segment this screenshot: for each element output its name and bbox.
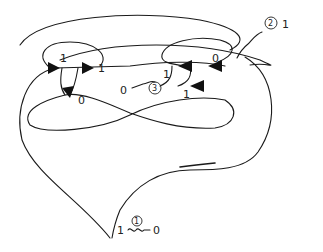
crossing-label: 0 [212, 52, 219, 65]
move-number: 1 [134, 217, 139, 226]
move-target: 1 [282, 18, 289, 31]
move-number: 3 [152, 84, 157, 93]
crossing-label: 1 [163, 68, 170, 81]
move-source: 1 [117, 224, 124, 237]
move-number: 2 [268, 19, 273, 28]
crossing-label: 1 [183, 88, 190, 101]
labels-layer: 1 1 0 0 1 1 3 0 2 1 1 1 0 [0, 0, 323, 252]
move-target: 0 [153, 224, 160, 237]
knot-diagram: 1 1 0 0 1 1 3 0 2 1 1 1 0 [0, 0, 323, 252]
crossing-label: 1 [60, 52, 67, 65]
move-target: 0 [120, 84, 127, 97]
crossing-label: 1 [98, 62, 105, 75]
crossing-label: 0 [78, 94, 85, 107]
